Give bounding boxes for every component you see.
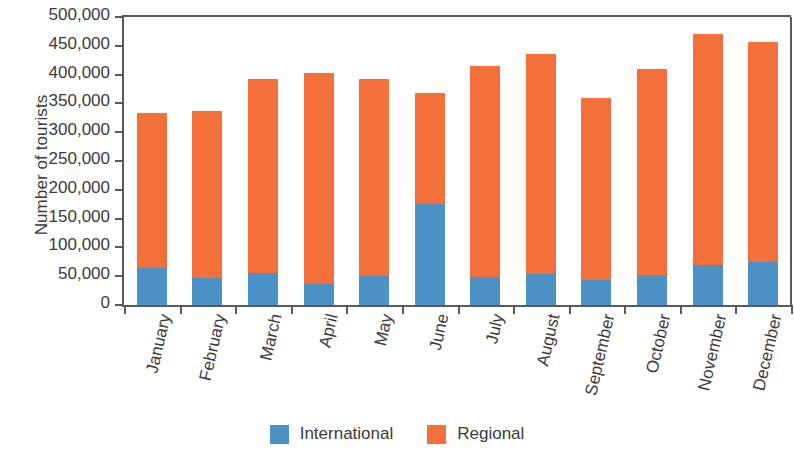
x-axis-tick (513, 305, 515, 314)
y-axis-tick-label: 0 (14, 294, 110, 311)
x-axis-tick (124, 305, 126, 314)
stacked-bar[interactable] (192, 111, 222, 305)
bar-segment-regional[interactable] (248, 79, 278, 274)
x-axis-tick-label: April (315, 312, 342, 350)
x-axis-tick (235, 305, 237, 314)
bar-segment-regional[interactable] (359, 79, 389, 277)
y-axis-tick (115, 102, 124, 104)
x-axis-tick-label: August (533, 312, 564, 368)
bar-segment-regional[interactable] (581, 98, 611, 280)
stacked-bar[interactable] (248, 79, 278, 305)
y-axis-tick-label: 250,000 (14, 150, 110, 167)
x-axis-tick-label: June (425, 312, 453, 352)
stacked-bar[interactable] (470, 66, 500, 305)
bar-segment-regional[interactable] (415, 93, 445, 204)
y-axis-tick (115, 45, 124, 47)
bar-segment-regional[interactable] (470, 66, 500, 277)
x-axis-tick-label: December (750, 312, 787, 393)
stacked-bar[interactable] (693, 34, 723, 305)
stacked-bar[interactable] (581, 98, 611, 305)
x-axis-tick-label: May (371, 312, 398, 348)
x-axis-tick (680, 305, 682, 314)
stacked-bar[interactable] (359, 79, 389, 305)
chart-legend: International Regional (0, 424, 794, 444)
bar-slot (458, 17, 514, 305)
y-axis-tick-label: 200,000 (14, 179, 110, 196)
x-axis-tick-label: October (642, 312, 675, 375)
x-axis-tick-label: July (482, 312, 508, 346)
legend-swatch-international-icon (270, 425, 289, 444)
x-axis-tick-label: March (256, 312, 286, 363)
x-axis-tick-label: September (582, 312, 620, 398)
x-axis-tick (291, 305, 293, 314)
stacked-bar[interactable] (748, 42, 778, 305)
y-axis-tick-label: 500,000 (14, 6, 110, 23)
y-axis-tick (115, 246, 124, 248)
y-axis-tick-label: 350,000 (14, 92, 110, 109)
y-axis-tick (115, 189, 124, 191)
legend-label-regional: Regional (457, 424, 524, 444)
legend-swatch-regional-icon (427, 425, 446, 444)
y-axis-tick-label: 50,000 (14, 265, 110, 282)
y-axis-tick (115, 74, 124, 76)
bar-slot (346, 17, 402, 305)
bar-segment-regional[interactable] (637, 69, 667, 275)
bar-segment-regional[interactable] (192, 111, 222, 278)
y-axis-tick-label: 300,000 (14, 121, 110, 138)
stacked-bar[interactable] (637, 69, 667, 305)
y-axis-tick (115, 131, 124, 133)
stacked-bar[interactable] (415, 93, 445, 305)
y-axis-tick (115, 160, 124, 162)
y-axis-tick (115, 275, 124, 277)
stacked-bar[interactable] (526, 54, 556, 305)
y-axis-tick-label: 100,000 (14, 236, 110, 253)
x-axis-tick-label: February (196, 312, 231, 383)
x-axis-tick (458, 305, 460, 314)
y-axis-tick-label: 450,000 (14, 35, 110, 52)
bar-segment-regional[interactable] (304, 73, 334, 284)
bar-slot (235, 17, 291, 305)
legend-item-international: International (270, 424, 394, 444)
x-axis-tick (346, 305, 348, 314)
tourist-arrivals-stacked-bar-chart: Number of tourists 500,000450,000400,000… (0, 0, 794, 453)
x-axis-tick (402, 305, 404, 314)
legend-label-international: International (300, 424, 394, 444)
x-axis-tick (791, 305, 793, 314)
x-axis-tick (569, 305, 571, 314)
y-axis-tick-label: 150,000 (14, 208, 110, 225)
y-axis-tick-label: 400,000 (14, 64, 110, 81)
stacked-bar[interactable] (137, 113, 167, 305)
y-axis-tick (115, 304, 124, 306)
x-axis-tick (624, 305, 626, 314)
x-axis-tick-label: November (694, 312, 731, 393)
bar-segment-regional[interactable] (748, 42, 778, 262)
stacked-bar[interactable] (304, 73, 334, 305)
y-axis-tick (115, 16, 124, 18)
bar-segment-regional[interactable] (526, 54, 556, 274)
x-axis-tick (735, 305, 737, 314)
bar-segment-regional[interactable] (137, 113, 167, 267)
x-axis-tick-label: January (142, 312, 175, 375)
y-axis-tick (115, 218, 124, 220)
legend-item-regional: Regional (427, 424, 524, 444)
bar-slot (291, 17, 347, 305)
x-axis-tick (180, 305, 182, 314)
bar-slot (402, 17, 458, 305)
bar-segment-regional[interactable] (693, 34, 723, 264)
